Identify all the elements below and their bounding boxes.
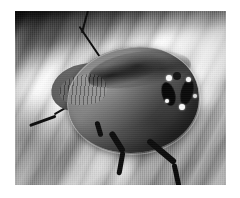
insect-marking-small — [173, 72, 181, 80]
shield-bug — [15, 11, 226, 185]
insect-highlight-spot-4 — [165, 99, 169, 103]
antenna-upper-segment-2 — [81, 11, 90, 33]
photograph — [15, 11, 226, 185]
image-canvas — [0, 0, 240, 198]
antenna-lower-segment-2 — [29, 115, 56, 127]
insect-highlight-spot-2 — [186, 77, 191, 82]
insect-leg-hind-tibia — [172, 163, 183, 185]
insect-highlight-spot-5 — [193, 94, 197, 98]
insect-highlight-spot-3 — [179, 104, 185, 110]
insect-highlight-spot-1 — [166, 75, 172, 81]
